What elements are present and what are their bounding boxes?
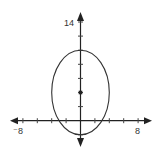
y-axis-down-arrow-icon — [77, 138, 84, 147]
x-min-label: ⁻8 — [13, 126, 23, 136]
y-axis-up-arrow-icon — [77, 12, 84, 21]
y-max-label: 14 — [64, 18, 74, 28]
axes — [10, 12, 152, 147]
x-axis-right-arrow-icon — [144, 117, 152, 124]
center-dot — [79, 91, 83, 95]
center-point — [79, 91, 83, 95]
ellipse-graph: ⁻8 8 14 — [0, 0, 160, 156]
x-axis-left-arrow-icon — [10, 117, 18, 124]
x-max-label: 8 — [135, 126, 140, 136]
